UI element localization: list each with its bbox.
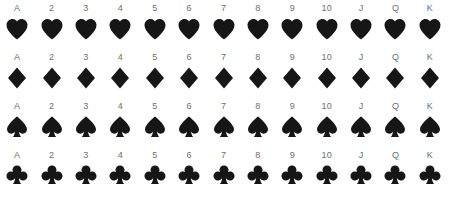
card-cell[interactable]: Q <box>378 150 412 190</box>
diamond-icon <box>349 64 373 92</box>
club-icon <box>315 162 339 190</box>
card-cell[interactable]: J <box>344 150 378 190</box>
spade-icon <box>143 113 167 141</box>
card-cell[interactable]: 4 <box>103 101 137 141</box>
diamond-icon <box>212 64 236 92</box>
card-cell[interactable]: 6 <box>172 101 206 141</box>
rank-label: A <box>14 101 20 112</box>
rank-label: J <box>359 150 364 161</box>
card-cell[interactable]: 6 <box>172 150 206 190</box>
heart-icon <box>5 15 29 43</box>
card-cell[interactable]: 6 <box>172 52 206 92</box>
card-cell[interactable]: Q <box>378 52 412 92</box>
club-icon <box>383 162 407 190</box>
card-cell[interactable]: 4 <box>103 150 137 190</box>
card-cell[interactable]: Q <box>378 101 412 141</box>
spade-icon <box>5 113 29 141</box>
card-cell[interactable]: 3 <box>69 101 103 141</box>
rank-label: 10 <box>322 101 332 112</box>
card-cell[interactable]: K <box>413 101 447 141</box>
card-cell[interactable]: 5 <box>138 52 172 92</box>
rank-label: K <box>427 3 433 14</box>
rank-label: 3 <box>83 150 88 161</box>
card-cell[interactable]: 6 <box>172 3 206 43</box>
card-cell[interactable]: 10 <box>310 101 344 141</box>
rank-label: 7 <box>221 150 226 161</box>
card-cell[interactable]: 10 <box>310 3 344 43</box>
card-cell[interactable]: 9 <box>275 3 309 43</box>
card-cell[interactable]: 2 <box>34 52 68 92</box>
heart-icon <box>418 15 442 43</box>
club-icon <box>40 162 64 190</box>
rank-label: 6 <box>187 101 192 112</box>
rank-label: 2 <box>49 101 54 112</box>
card-cell[interactable]: A <box>0 101 34 141</box>
diamond-icon <box>143 64 167 92</box>
card-cell[interactable]: 5 <box>138 101 172 141</box>
rank-label: 6 <box>187 52 192 63</box>
rank-label: 5 <box>152 52 157 63</box>
heart-icon <box>74 15 98 43</box>
heart-icon <box>280 15 304 43</box>
card-cell[interactable]: J <box>344 52 378 92</box>
card-cell[interactable]: A <box>0 3 34 43</box>
card-cell[interactable]: 8 <box>241 150 275 190</box>
card-cell[interactable]: K <box>413 3 447 43</box>
rank-label: 8 <box>255 150 260 161</box>
rank-label: 10 <box>322 150 332 161</box>
card-cell[interactable]: 9 <box>275 52 309 92</box>
card-cell[interactable]: A <box>0 52 34 92</box>
card-cell[interactable]: 8 <box>241 101 275 141</box>
card-cell[interactable]: 10 <box>310 52 344 92</box>
card-cell[interactable]: 5 <box>138 3 172 43</box>
club-icon <box>418 162 442 190</box>
card-cell[interactable]: K <box>413 52 447 92</box>
card-cell[interactable]: 7 <box>206 3 240 43</box>
rank-label: 10 <box>322 52 332 63</box>
spade-icon <box>108 113 132 141</box>
club-icon <box>280 162 304 190</box>
suit-row-clubs: A 2 3 4 5 <box>0 150 459 197</box>
card-cell[interactable]: 7 <box>206 101 240 141</box>
rank-label: K <box>427 101 433 112</box>
card-cell[interactable]: 7 <box>206 52 240 92</box>
diamond-icon <box>177 64 201 92</box>
club-icon <box>74 162 98 190</box>
card-cell[interactable]: 2 <box>34 3 68 43</box>
card-cell[interactable]: J <box>344 3 378 43</box>
card-cell[interactable]: 9 <box>275 101 309 141</box>
card-cell[interactable]: 2 <box>34 101 68 141</box>
card-cell[interactable]: 8 <box>241 52 275 92</box>
card-cell[interactable]: 7 <box>206 150 240 190</box>
card-cell[interactable]: 3 <box>69 3 103 43</box>
heart-icon <box>177 15 201 43</box>
card-cell[interactable]: 4 <box>103 52 137 92</box>
card-cell[interactable]: 4 <box>103 3 137 43</box>
card-cell[interactable]: 3 <box>69 52 103 92</box>
diamond-icon <box>280 64 304 92</box>
rank-label: J <box>359 3 364 14</box>
card-cell[interactable]: K <box>413 150 447 190</box>
spade-icon <box>177 113 201 141</box>
diamond-icon <box>246 64 270 92</box>
card-cell[interactable]: A <box>0 150 34 190</box>
card-cell[interactable]: 10 <box>310 150 344 190</box>
rank-label: 7 <box>221 101 226 112</box>
card-cell[interactable]: J <box>344 101 378 141</box>
card-cell[interactable]: Q <box>378 3 412 43</box>
heart-icon <box>315 15 339 43</box>
card-cell[interactable]: 8 <box>241 3 275 43</box>
rank-label: 5 <box>152 3 157 14</box>
rank-label: 5 <box>152 150 157 161</box>
spade-icon <box>315 113 339 141</box>
rank-label: 2 <box>49 3 54 14</box>
rank-label: Q <box>392 52 399 63</box>
card-cell[interactable]: 2 <box>34 150 68 190</box>
card-cell[interactable]: 5 <box>138 150 172 190</box>
card-cell[interactable]: 9 <box>275 150 309 190</box>
spade-icon <box>212 113 236 141</box>
card-cell[interactable]: 3 <box>69 150 103 190</box>
rank-label: K <box>427 150 433 161</box>
rank-label: 7 <box>221 3 226 14</box>
rank-label: Q <box>392 101 399 112</box>
